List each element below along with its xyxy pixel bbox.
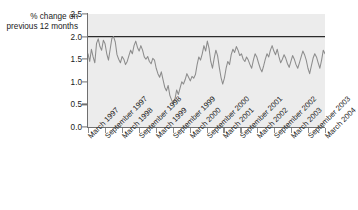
y-axis-tick-mark — [82, 81, 87, 82]
x-axis-tick-mark — [207, 128, 208, 133]
x-axis-tick-mark — [156, 128, 157, 133]
x-axis-tick-mark — [308, 128, 309, 133]
x-axis-tick-mark — [139, 128, 140, 133]
x-axis-tick-mark — [325, 128, 326, 133]
y-axis-tick-mark — [82, 59, 87, 60]
y-axis-tick-mark — [82, 126, 87, 127]
x-axis-tick-mark — [223, 128, 224, 133]
x-axis-tick-mark — [257, 128, 258, 133]
y-axis-tick-mark — [82, 36, 87, 37]
x-axis-tick-mark — [274, 128, 275, 133]
x-axis-tick-mark — [105, 128, 106, 133]
x-axis-tick-mark — [88, 128, 89, 133]
x-axis-tick-mark — [122, 128, 123, 133]
x-axis-tick-mark — [190, 128, 191, 133]
y-axis-tick-mark — [82, 104, 87, 105]
x-axis-tick-mark — [291, 128, 292, 133]
x-axis-tick-mark — [240, 128, 241, 133]
x-axis-tick-mark — [173, 128, 174, 133]
y-axis-tick-mark — [82, 13, 87, 14]
